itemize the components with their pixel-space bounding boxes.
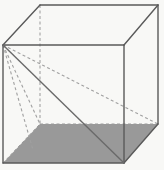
cube-figure <box>0 0 164 170</box>
cube-diagram <box>0 0 164 170</box>
